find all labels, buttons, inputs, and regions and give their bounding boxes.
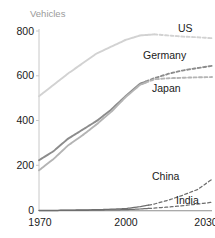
- series-label-japan: Japan: [152, 82, 181, 94]
- series-line-japan-historical: [39, 83, 146, 171]
- y-tick-label-200: 200: [16, 159, 34, 171]
- y-tick-label-400: 400: [16, 114, 34, 126]
- x-axis-tick-labels: 1970 2000 2030: [28, 216, 215, 228]
- x-tick-label-2030: 2030: [194, 216, 215, 228]
- chart-canvas: Vehicles 800 600 400 200 0 1970 2000 203…: [0, 0, 215, 238]
- series-label-india: India: [176, 194, 199, 206]
- x-tick-label-2000: 2000: [114, 216, 138, 228]
- y-tick-label-600: 600: [16, 69, 34, 81]
- series-labels: US Germany Japan China India: [143, 22, 199, 206]
- y-tick-label-0: 0: [28, 204, 34, 216]
- series-line-us-forecast: [154, 34, 212, 38]
- vehicles-line-chart: Vehicles 800 600 400 200 0 1970 2000 203…: [0, 0, 215, 238]
- series-label-china: China: [152, 170, 180, 182]
- series-label-us: US: [178, 22, 193, 34]
- y-axis-tick-labels: 800 600 400 200 0: [16, 25, 34, 216]
- y-axis-title: Vehicles: [30, 8, 66, 19]
- series-label-germany: Germany: [143, 49, 187, 61]
- x-tick-label-1970: 1970: [28, 216, 52, 228]
- y-tick-label-800: 800: [16, 25, 34, 37]
